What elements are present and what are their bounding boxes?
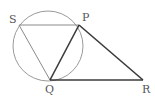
label-s: S xyxy=(9,13,17,26)
segment-pq xyxy=(50,25,79,80)
circumcircle xyxy=(13,11,83,81)
label-r: R xyxy=(142,83,151,96)
label-p: P xyxy=(82,11,90,24)
geometry-diagram: S P Q R xyxy=(0,0,155,98)
segment-pr xyxy=(79,25,143,80)
label-q: Q xyxy=(45,83,54,96)
